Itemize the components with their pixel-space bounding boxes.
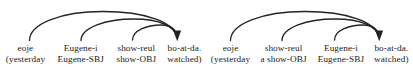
arc-layer-b <box>206 0 413 45</box>
arrowhead-b <box>375 30 383 41</box>
gloss-a-3: watched) <box>162 54 207 65</box>
gloss-b-1: a show-OBJ <box>255 54 312 65</box>
gloss-a-1: Eugene-SBJ <box>51 54 111 65</box>
surface-a-1: Eugene-i <box>51 43 111 54</box>
arrowhead-a <box>173 30 181 41</box>
gloss-b-3: watched) <box>370 54 413 65</box>
surface-a-0: eoje <box>0 43 51 54</box>
surface-b-1: show-reul <box>255 43 312 54</box>
gloss-row-b: (yesterday a show-OBJ Eugene-SBJ watched… <box>206 54 413 65</box>
arc-a-3 <box>133 25 178 40</box>
surface-b-0: eoje <box>206 43 255 54</box>
gloss-table-a: eoje Eugene-i show-reul bo-at-da. (yeste… <box>0 43 207 66</box>
diagram-variant-a: eoje Eugene-i show-reul bo-at-da. (yeste… <box>0 0 207 73</box>
diagram-variant-b: eoje show-reul Eugene-i bo-at-da. (yeste… <box>206 0 413 73</box>
arc-a-1 <box>30 12 178 41</box>
gloss-row-a: (yesterday Eugene-SBJ show-OBJ watched) <box>0 54 207 65</box>
surface-b-2: Eugene-i <box>312 43 369 54</box>
gloss-a-2: show-OBJ <box>111 54 162 65</box>
surface-b-3: bo-at-da. <box>370 43 413 54</box>
gloss-table-b: eoje show-reul Eugene-i bo-at-da. (yeste… <box>206 43 413 66</box>
arc-layer-a <box>0 0 207 45</box>
arc-b-3 <box>335 25 380 40</box>
dependency-arc-figure: eoje Eugene-i show-reul bo-at-da. (yeste… <box>0 0 413 73</box>
gloss-a-0: (yesterday <box>0 54 51 65</box>
gloss-b-0: (yesterday <box>206 54 255 65</box>
surface-row-a: eoje Eugene-i show-reul bo-at-da. <box>0 43 207 54</box>
surface-row-b: eoje show-reul Eugene-i bo-at-da. <box>206 43 413 54</box>
surface-a-3: bo-at-da. <box>162 43 207 54</box>
gloss-b-2: Eugene-SBJ <box>312 54 369 65</box>
surface-a-2: show-reul <box>111 43 162 54</box>
